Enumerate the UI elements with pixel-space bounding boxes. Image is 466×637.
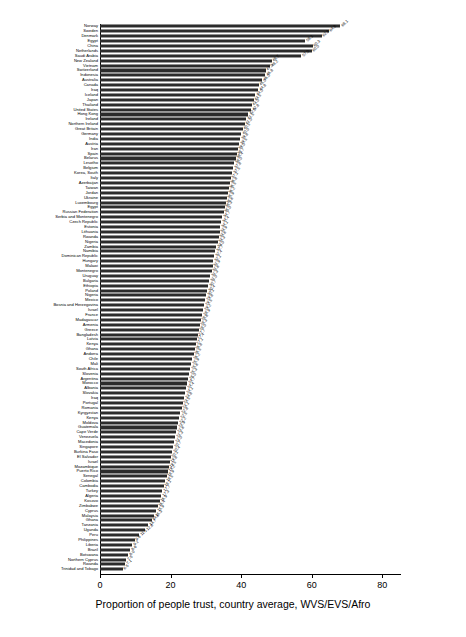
bar <box>100 509 156 512</box>
bar <box>100 201 226 204</box>
bar-row: Trinidad and Tobago6.5 <box>0 567 466 572</box>
bar <box>100 40 305 43</box>
bar <box>100 30 329 33</box>
bar <box>100 460 170 463</box>
bar <box>100 284 208 287</box>
bar <box>100 446 173 449</box>
bar <box>100 108 251 111</box>
bar <box>100 133 241 136</box>
bar <box>100 397 184 400</box>
bar <box>100 411 180 414</box>
x-tick-label: 80 <box>377 580 387 590</box>
x-tick-label: 60 <box>307 580 317 590</box>
bar <box>100 431 176 434</box>
bar <box>100 504 158 507</box>
bar <box>100 69 266 72</box>
x-axis-line <box>100 574 401 575</box>
bar <box>100 348 195 351</box>
bar <box>100 328 199 331</box>
bar <box>100 181 230 184</box>
bar <box>100 499 160 502</box>
bar <box>100 274 210 277</box>
bar <box>100 362 191 365</box>
bar <box>100 44 313 47</box>
bar <box>100 524 148 527</box>
bar <box>100 387 186 390</box>
bar <box>100 318 201 321</box>
bar <box>100 568 123 571</box>
bar-rows: Norway68.1Sweden64.8Denmark62.8Egypt58.1… <box>0 24 466 572</box>
bar <box>100 392 185 395</box>
bar <box>100 74 265 77</box>
bar <box>100 35 322 38</box>
bar <box>100 250 215 253</box>
x-tick-label: 0 <box>97 580 102 590</box>
bar <box>100 167 233 170</box>
bar <box>100 470 168 473</box>
bar <box>100 79 262 82</box>
bar <box>100 538 135 541</box>
bar <box>100 426 177 429</box>
bar <box>100 465 169 468</box>
bar <box>100 514 154 517</box>
bar <box>100 191 228 194</box>
bar <box>100 196 227 199</box>
x-tick <box>171 574 172 578</box>
bar <box>100 338 197 341</box>
x-tick <box>312 574 313 578</box>
bar <box>100 230 220 233</box>
bar <box>100 450 172 453</box>
bar <box>100 304 204 307</box>
bar <box>100 265 213 268</box>
bar <box>100 436 175 439</box>
bar <box>100 441 174 444</box>
bar <box>100 142 239 145</box>
bar <box>100 421 178 424</box>
bar <box>100 118 246 121</box>
bar <box>100 558 126 561</box>
bar <box>100 211 224 214</box>
bar <box>100 240 218 243</box>
bar <box>100 269 212 272</box>
bar <box>100 543 132 546</box>
bar <box>100 216 222 219</box>
bar <box>100 123 245 126</box>
bar <box>100 553 128 556</box>
bar <box>100 260 213 263</box>
value-label: 60.0 <box>312 44 320 52</box>
bar <box>100 113 248 116</box>
value-label: 68.1 <box>341 20 349 28</box>
bar <box>100 245 216 248</box>
bar <box>100 377 188 380</box>
bar <box>100 563 125 566</box>
bar <box>100 333 198 336</box>
bar <box>100 294 206 297</box>
bar <box>100 88 258 91</box>
bar <box>100 475 167 478</box>
bar <box>100 401 183 404</box>
x-tick-label: 20 <box>166 580 176 590</box>
bar <box>100 323 200 326</box>
bar <box>100 353 194 356</box>
value-label: 62.8 <box>322 30 330 38</box>
bar <box>100 372 189 375</box>
bar <box>100 25 340 28</box>
bar <box>100 225 220 228</box>
x-axis-title: Proportion of people trust, country aver… <box>0 598 466 610</box>
bar <box>100 529 145 532</box>
bar <box>100 548 130 551</box>
bar <box>100 93 255 96</box>
bar <box>100 172 232 175</box>
bar <box>100 494 161 497</box>
bar <box>100 357 192 360</box>
bar <box>100 279 209 282</box>
bar <box>100 103 252 106</box>
x-tick <box>382 574 383 578</box>
bar <box>100 534 139 537</box>
bar <box>100 382 187 385</box>
bar <box>100 64 270 67</box>
bar <box>100 162 234 165</box>
x-tick <box>241 574 242 578</box>
bar <box>100 255 214 258</box>
bar <box>100 137 240 140</box>
